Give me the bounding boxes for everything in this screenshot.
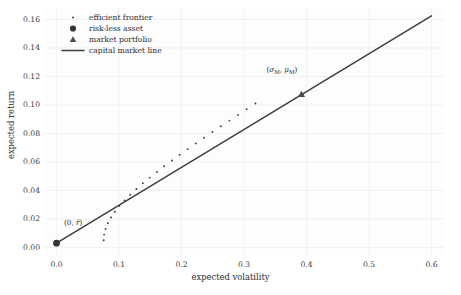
market-portfolio-label: (σM, μM) xyxy=(267,65,298,75)
y-tick-label: 0.02 xyxy=(6,214,40,223)
circle-marker-icon xyxy=(60,23,86,34)
x-tick-label: 0.0 xyxy=(42,260,72,269)
x-tick-label: 0.4 xyxy=(292,260,322,269)
x-tick-label: 0.5 xyxy=(354,260,384,269)
x-tick-label: 0.2 xyxy=(167,260,197,269)
risk-free-point-label: (0, r̄) xyxy=(64,218,82,227)
efficient-frontier-series xyxy=(103,103,257,242)
y-tick-label: 0.00 xyxy=(6,243,40,252)
x-tick-label: 0.6 xyxy=(417,260,447,269)
y-axis-label: expected return xyxy=(6,65,16,185)
figure: (0, r̄) (σM, μM) 0.000.020.040.060.080.1… xyxy=(0,0,461,295)
line-marker-icon xyxy=(60,45,86,56)
x-tick-label: 0.1 xyxy=(104,260,134,269)
legend-item-label: market portfolio xyxy=(86,35,152,44)
legend-item[interactable]: risk-less asset xyxy=(60,23,162,34)
triangle-marker-icon xyxy=(60,34,86,45)
x-tick-label: 0.3 xyxy=(229,260,259,269)
chart-legend: efficient frontierrisk-less assetmarket … xyxy=(60,12,162,56)
y-tick-label: 0.16 xyxy=(6,15,40,24)
legend-item-label: capital market line xyxy=(86,46,162,55)
y-tick-label: 0.04 xyxy=(6,186,40,195)
legend-item[interactable]: efficient frontier xyxy=(60,12,162,23)
y-tick-label: 0.14 xyxy=(6,43,40,52)
legend-item-label: efficient frontier xyxy=(86,13,152,22)
legend-item[interactable]: capital market line xyxy=(60,45,162,56)
legend-item[interactable]: market portfolio xyxy=(60,34,162,45)
dot-marker-icon xyxy=(60,12,86,23)
legend-item-label: risk-less asset xyxy=(86,24,143,33)
x-axis-label: expected volatility xyxy=(0,272,461,282)
